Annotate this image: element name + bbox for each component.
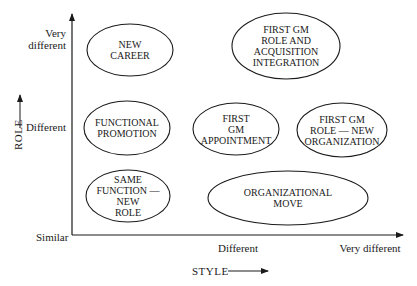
- node-label-line: ORGANIZATION: [305, 136, 380, 147]
- node-label-line: CAREER: [110, 50, 149, 61]
- node-first-gm-appointment: FIRSTGMAPPOINTMENT: [193, 103, 279, 155]
- y-tick-very: Very: [0, 27, 66, 39]
- node-label-line: ORGANIZATIONAL: [244, 187, 332, 198]
- node-label-line: FUNCTIONAL: [95, 117, 159, 128]
- node-first-gm-new-org: FIRST GMROLE — NEWORGANIZATION: [297, 103, 387, 157]
- x-axis-title: STYLE: [192, 266, 229, 277]
- y-tick-different: Different: [0, 122, 66, 133]
- node-label-line: FUNCTION —: [96, 185, 159, 196]
- x-tick-different: Different: [218, 243, 258, 254]
- node-functional-promotion: FUNCTIONALPROMOTION: [84, 101, 170, 155]
- node-label-line: FIRST GM: [305, 114, 380, 125]
- node-label-line: NEW: [96, 196, 159, 207]
- node-label-line: FIRST: [201, 113, 272, 124]
- node-label-line: SAME: [96, 174, 159, 185]
- node-organizational-move: ORGANIZATIONALMOVE: [208, 171, 368, 225]
- node-label-line: APPOINTMENT: [201, 135, 272, 146]
- x-tick-very-different: Very different: [339, 243, 400, 254]
- node-label-line: MOVE: [244, 198, 332, 209]
- node-label-line: ACQUISITION: [253, 46, 320, 57]
- node-label-line: NEW: [110, 39, 149, 50]
- node-label-line: ROLE AND: [253, 35, 320, 46]
- node-label-line: ROLE — NEW: [305, 125, 380, 136]
- y-tick-very-different: Very different: [0, 27, 66, 51]
- y-tick-different-word: different: [0, 39, 66, 51]
- node-label-line: GM: [201, 124, 272, 135]
- node-label-line: INTEGRATION: [253, 57, 320, 68]
- node-same-function-new-role: SAMEFUNCTION —NEWROLE: [86, 170, 170, 222]
- y-axis-title: ROLE: [12, 119, 24, 150]
- node-label-line: FIRST GM: [253, 24, 320, 35]
- node-label-line: ROLE: [96, 207, 159, 218]
- origin-label-similar: Similar: [36, 232, 68, 243]
- node-new-career: NEWCAREER: [87, 24, 173, 76]
- node-first-gm-acquisition: FIRST GMROLE ANDACQUISITIONINTEGRATION: [232, 13, 340, 79]
- node-label-line: PROMOTION: [95, 128, 159, 139]
